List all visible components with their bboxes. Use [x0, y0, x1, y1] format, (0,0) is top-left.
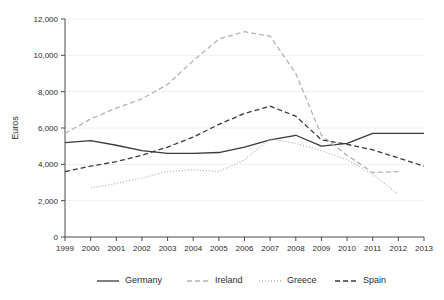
x-tick-label: 2011 [364, 244, 382, 253]
y-axis-title: Euros [10, 116, 20, 140]
legend-label-ireland: Ireland [215, 275, 243, 285]
chart-legend: GermanyIrelandGreeceSpain [97, 275, 386, 285]
y-tick-label: 0 [54, 233, 59, 242]
line-chart: 02,0004,0006,0008,00010,00012,000 199920… [0, 0, 444, 300]
x-tick-label: 2001 [107, 244, 125, 253]
series-line-spain [65, 106, 424, 171]
y-tick-label: 8,000 [38, 88, 59, 97]
x-tick-label: 2012 [389, 244, 407, 253]
x-tick-label: 2000 [82, 244, 100, 253]
series-lines [65, 32, 424, 195]
x-tick-label: 2013 [415, 244, 433, 253]
x-tick-label: 2010 [338, 244, 356, 253]
x-tick-label: 1999 [56, 244, 74, 253]
gridlines [65, 19, 424, 201]
y-tick-label: 2,000 [38, 197, 59, 206]
legend-label-germany: Germany [125, 275, 163, 285]
y-tick-label: 4,000 [38, 160, 59, 169]
x-tick-label: 2008 [287, 244, 305, 253]
series-line-ireland [65, 32, 398, 173]
legend-label-greece: Greece [287, 275, 317, 285]
x-tick-label: 2007 [261, 244, 279, 253]
y-tick-label: 12,000 [34, 15, 59, 24]
y-tick-label: 6,000 [38, 124, 59, 133]
x-tick-label: 2006 [236, 244, 254, 253]
y-tick-label: 10,000 [34, 51, 59, 60]
x-axis: 1999200020012002200320042005200620072008… [56, 237, 433, 253]
legend-label-spain: Spain [363, 275, 386, 285]
x-tick-label: 2002 [133, 244, 151, 253]
x-tick-label: 2004 [184, 244, 202, 253]
x-tick-label: 2003 [159, 244, 177, 253]
x-tick-label: 2009 [313, 244, 331, 253]
y-axis: 02,0004,0006,0008,00010,00012,000 [34, 15, 65, 242]
series-line-germany [65, 133, 424, 153]
x-tick-label: 2005 [210, 244, 228, 253]
chart-canvas: 02,0004,0006,0008,00010,00012,000 199920… [0, 0, 444, 300]
